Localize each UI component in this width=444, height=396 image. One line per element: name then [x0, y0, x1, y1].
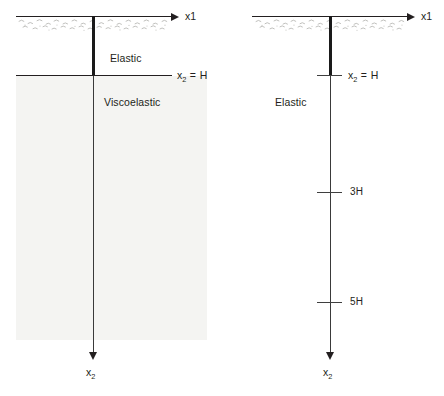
x2-axis-label: x2 — [86, 366, 95, 383]
depth-H-label-equals: = H — [357, 69, 378, 81]
x1-axis-label: x1 — [421, 10, 432, 22]
x2-axis-label-subscript: 2 — [328, 372, 332, 381]
x1-axis-label: x1 — [185, 10, 196, 22]
viscoelastic-region-shading — [16, 76, 207, 340]
x2-axis-label-subscript: 2 — [91, 372, 95, 381]
x1-axis-arrowhead — [407, 13, 415, 21]
depth-H-label: x2 = H — [348, 69, 379, 86]
elastic-region-label: Elastic — [110, 52, 142, 64]
depth-3H-tick-mark — [317, 192, 342, 193]
x2-axis-label: x2 — [323, 366, 332, 383]
depth-H-tick-mark — [317, 75, 342, 76]
viscoelastic-region-label: Viscoelastic — [104, 96, 160, 108]
depth-H-label-equals: = H — [186, 69, 207, 81]
figure-canvas: x1 x2 x2 = H Elastic Viscoelastic — [0, 0, 444, 396]
depth-H-interface-line — [16, 75, 172, 76]
bold-column-segment — [92, 16, 95, 76]
depth-3H-label: 3H — [350, 186, 363, 198]
depth-H-label: x2 = H — [177, 69, 208, 86]
x2-axis-line — [330, 76, 331, 354]
elastic-region-label: Elastic — [275, 96, 307, 108]
depth-5H-label: 5H — [350, 296, 363, 308]
x2-axis-line — [93, 76, 94, 354]
depth-5H-tick-mark — [317, 302, 342, 303]
bold-column-segment — [329, 16, 332, 76]
x1-axis-arrowhead — [171, 13, 179, 21]
x2-axis-arrowhead — [89, 352, 97, 360]
panel-elastic-over-viscoelastic: x1 x2 x2 = H Elastic Viscoelastic — [0, 0, 222, 396]
x2-axis-arrowhead — [326, 352, 334, 360]
panel-uniform-elastic: x1 x2 x2 = H 3H 5H Elastic — [222, 0, 444, 396]
